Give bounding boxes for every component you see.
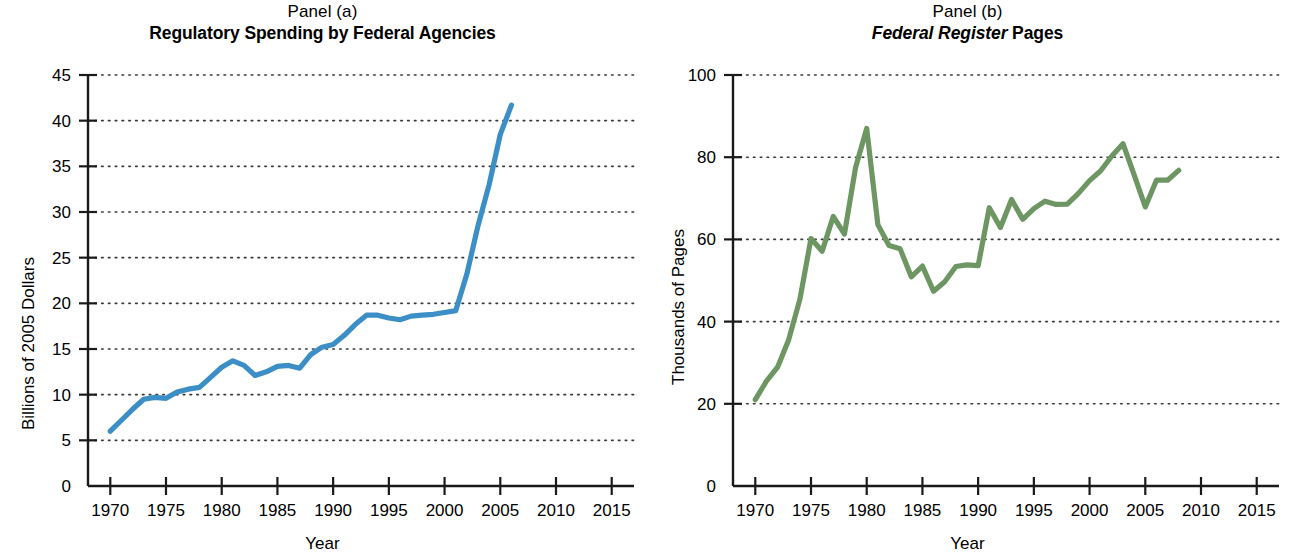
regulation-growth-figure: Panel (a) Regulatory Spending by Federal… (0, 0, 1290, 558)
panel-b-x-tick-label: 2005 (1126, 501, 1164, 520)
panel-a-y-tick-label: 10 (52, 386, 71, 405)
panel-a-x-tick-label: 1985 (259, 501, 297, 520)
panel-a-y-tick-label: 45 (52, 66, 71, 85)
panel-a-plot: 0510152025303540451970197519801985199019… (0, 0, 645, 558)
panel-a-y-tick-label: 0 (62, 477, 71, 496)
panel-a-y-tick-label: 40 (52, 112, 71, 131)
panel-a-x-tick-label: 2000 (426, 501, 464, 520)
panel-a-x-tick-label: 1975 (147, 501, 185, 520)
panel-a-x-tick-label: 1995 (370, 501, 408, 520)
panel-b-x-tick-label: 1980 (848, 501, 886, 520)
panel-b-y-tick-label: 60 (697, 230, 716, 249)
panel-b-x-tick-label: 1970 (736, 501, 774, 520)
panel-a-x-tick-label: 1990 (314, 501, 352, 520)
panel-b-y-tick-label: 0 (707, 477, 716, 496)
panel-b-x-tick-label: 2010 (1182, 501, 1220, 520)
panel-b-x-tick-label: 2000 (1071, 501, 1109, 520)
panel-b-data-line (755, 128, 1178, 399)
panel-a-y-tick-label: 30 (52, 203, 71, 222)
panel-a-y-tick-label: 25 (52, 249, 71, 268)
panel-b-y-tick-label: 80 (697, 148, 716, 167)
panel-b-x-tick-label: 1975 (792, 501, 830, 520)
panel-a-y-tick-label: 20 (52, 294, 71, 313)
panel-a-x-tick-label: 2015 (593, 501, 631, 520)
panel-a-y-tick-label: 15 (52, 340, 71, 359)
panel-a-y-tick-label: 35 (52, 157, 71, 176)
panel-a-data-line (110, 105, 511, 431)
panel-b-y-tick-label: 40 (697, 313, 716, 332)
panel-a-x-tick-label: 2010 (537, 501, 575, 520)
panel-b-x-tick-label: 2015 (1238, 501, 1276, 520)
panel-a-y-tick-label: 5 (62, 431, 71, 450)
panel-b-y-tick-label: 100 (688, 66, 716, 85)
panel-b-plot: 0204060801001970197519801985199019952000… (645, 0, 1290, 558)
panel-b-x-tick-label: 1995 (1015, 501, 1053, 520)
panel-a-x-tick-label: 2005 (481, 501, 519, 520)
panel-b-x-tick-label: 1985 (904, 501, 942, 520)
panel-a-x-tick-label: 1970 (91, 501, 129, 520)
panel-b-y-tick-label: 20 (697, 395, 716, 414)
panel-b-x-tick-label: 1990 (959, 501, 997, 520)
panel-b: Panel (b) Federal Register Pages Thousan… (645, 0, 1290, 558)
panel-a: Panel (a) Regulatory Spending by Federal… (0, 0, 645, 558)
panel-a-x-tick-label: 1980 (203, 501, 241, 520)
